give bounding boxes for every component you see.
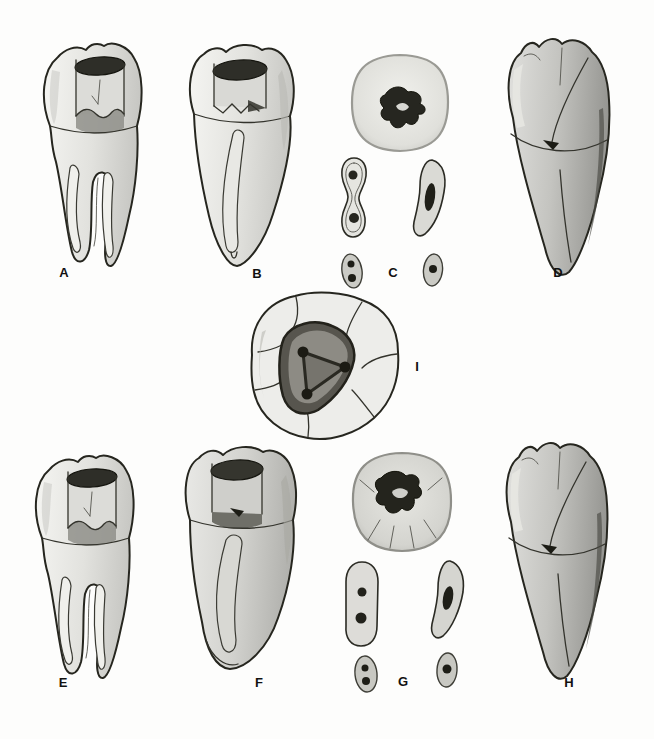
g-canal-dot <box>358 588 367 597</box>
canal-orifice-dot <box>340 362 351 373</box>
cross-sections-c <box>340 55 448 289</box>
c-canal-dot <box>349 213 359 223</box>
panel-label-b: B <box>252 266 261 281</box>
canal-orifice-dot <box>302 389 313 400</box>
figure-plate: A B C <box>0 0 654 739</box>
panel-label-c: C <box>388 265 398 280</box>
panel-label-i: I <box>415 359 419 374</box>
tooth-d-shaded-molar-side-view <box>509 39 610 275</box>
panel-label-e: E <box>59 675 68 690</box>
tooth-e-sectioned-two-root-molar <box>36 456 134 678</box>
c-canal-dot <box>348 274 356 282</box>
tooth-h-shaded-molar-side-view <box>507 443 608 679</box>
panel-label-a: A <box>59 265 69 280</box>
panel-label-d: D <box>553 265 562 280</box>
c-canal-dot <box>349 171 358 180</box>
tooth-a-furcation-inner-line <box>94 178 98 246</box>
c-apical-section-left <box>340 253 365 289</box>
g-mid-root-section-capsule <box>346 562 378 646</box>
c-canal-dot <box>348 261 355 268</box>
panel-label-g: G <box>398 674 408 689</box>
panel-label-h: H <box>564 675 573 690</box>
g-canal-dot <box>362 665 369 672</box>
tooth-b-sectioned-molar-side-view <box>190 45 294 266</box>
occlusal-view-i <box>251 293 398 440</box>
cross-sections-g <box>346 453 464 693</box>
tooth-d-body <box>509 39 610 275</box>
g-canal-dot <box>443 665 452 674</box>
canal-orifice-dot <box>298 347 309 358</box>
g-apical-section-left <box>353 655 379 693</box>
g-canal-dot <box>356 613 367 624</box>
tooth-a-root-canal-right <box>103 173 114 258</box>
tooth-a-sectioned-two-root-molar <box>44 44 142 266</box>
dental-anatomy-figure: A B C <box>0 0 654 739</box>
panel-label-f: F <box>255 675 263 690</box>
tooth-f-sectioned-molar-side-view <box>186 447 296 669</box>
c-mid-root-section-dumbbell <box>342 158 366 237</box>
c-canal-dot <box>429 265 437 273</box>
g-canal-dot <box>362 677 370 685</box>
